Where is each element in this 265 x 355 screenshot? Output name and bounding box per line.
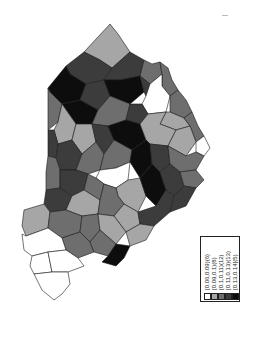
region <box>180 170 204 188</box>
legend-item: [0.11,0.13)(13) <box>225 240 232 300</box>
legend-label: [0.06,0.09)(6) <box>204 254 211 290</box>
legend-label: [0.1,0.11)(12) <box>218 254 225 290</box>
legend-label: [0.11,0.13)(13) <box>225 251 232 290</box>
legend-swatch <box>211 293 218 300</box>
stray-mark <box>222 15 228 16</box>
legend-label: [0.13,0.14](5) <box>232 254 239 290</box>
legend-item: [0.13,0.14](5) <box>232 240 239 300</box>
map-legend: [0.06,0.09)(6) [0.09,0.1)(8) [0.1,0.11)(… <box>200 236 240 302</box>
legend-swatch <box>225 293 232 300</box>
legend-item: [0.06,0.09)(6) <box>204 240 211 300</box>
legend-swatch <box>218 293 225 300</box>
legend-item: [0.1,0.11)(12) <box>218 240 225 300</box>
legend-item: [0.09,0.1)(8) <box>211 240 218 300</box>
region <box>34 272 70 300</box>
legend-label: [0.09,0.1)(8) <box>211 257 218 290</box>
legend-swatch <box>232 293 239 300</box>
legend-swatch <box>204 293 211 300</box>
